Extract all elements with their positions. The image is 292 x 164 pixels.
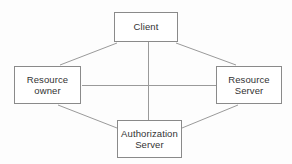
node-client-label: Client	[132, 21, 161, 32]
node-resource-owner: Resource owner	[14, 66, 81, 104]
edge-client-resource-owner	[60, 43, 117, 65]
edge-resource-server-authorization-server	[182, 105, 238, 128]
oauth-roles-diagram: Client Resource owner Resource Server Au…	[0, 0, 292, 164]
node-client: Client	[114, 12, 178, 42]
node-authorization-server: Authorization Server	[117, 120, 182, 158]
edge-resource-owner-authorization-server	[58, 105, 117, 128]
edge-client-resource-server	[176, 43, 236, 65]
node-authorization-server-label: Authorization Server	[119, 128, 180, 150]
node-resource-owner-label: Resource owner	[25, 74, 70, 96]
node-resource-server-label: Resource Server	[226, 74, 271, 96]
node-resource-server: Resource Server	[216, 66, 282, 104]
